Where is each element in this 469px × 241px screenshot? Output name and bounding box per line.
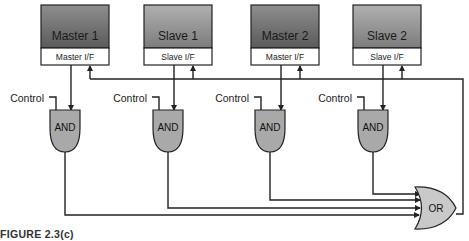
interface-label: Slave I/F — [161, 52, 195, 62]
interface-label: Slave I/F — [370, 52, 404, 62]
and4-to-or-wire — [373, 152, 420, 194]
or-gate: OR — [415, 187, 456, 229]
control-label: Control — [215, 92, 249, 104]
and-gate-label: AND — [54, 122, 75, 133]
unit-4: Slave 2Slave I/F — [353, 5, 421, 110]
and-gate-1: ANDControl — [10, 92, 80, 152]
and-gate-4: ANDControl — [318, 92, 388, 152]
control-wire — [357, 97, 364, 110]
unit-2: Slave 1Slave I/F — [144, 5, 212, 110]
and-gate-label: AND — [157, 122, 178, 133]
or-gate-label: OR — [429, 203, 444, 214]
and-gate-label: AND — [259, 122, 280, 133]
interface-label: Master I/F — [266, 52, 304, 62]
bus-arbitration-diagram: Master 1Master I/FSlave 1Slave I/FMaster… — [0, 0, 469, 241]
and1-to-or-wire — [65, 152, 419, 215]
interface-label: Master I/F — [56, 52, 94, 62]
and-gate-3: ANDControl — [215, 92, 285, 152]
unit-name: Slave 1 — [158, 29, 198, 43]
and3-to-or-wire — [270, 152, 420, 200]
and-gate-2: ANDControl — [113, 92, 183, 152]
control-wire — [49, 97, 56, 110]
control-label: Control — [318, 92, 352, 104]
unit-name: Master 2 — [262, 29, 309, 43]
control-wire — [254, 97, 261, 110]
control-label: Control — [10, 92, 44, 104]
unit-name: Slave 2 — [367, 29, 407, 43]
unit-1: Master 1Master I/F — [41, 5, 109, 110]
unit-3: Master 2Master I/F — [251, 5, 319, 110]
control-label: Control — [113, 92, 147, 104]
figure-caption: FIGURE 2.3(c) — [0, 228, 74, 240]
control-wire — [152, 97, 159, 110]
unit-name: Master 1 — [52, 29, 99, 43]
and-gate-label: AND — [362, 122, 383, 133]
